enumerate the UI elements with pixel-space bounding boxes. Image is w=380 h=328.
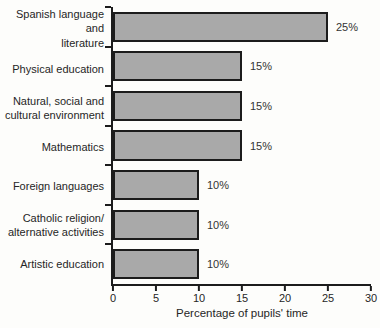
- x-axis: 051015202530: [0, 286, 380, 306]
- x-axis-label-row: Percentage of pupils' time: [0, 306, 380, 319]
- x-axis-tick: 5: [153, 286, 159, 304]
- tick-mark: [284, 286, 286, 291]
- chart-row: 15%: [113, 47, 371, 87]
- bar: [113, 170, 199, 200]
- category-label: Foreign languages: [0, 167, 111, 206]
- chart-row: 15%: [113, 86, 371, 126]
- value-label: 10%: [207, 179, 229, 191]
- x-axis-tick: 15: [236, 286, 248, 304]
- category-label: Catholic religion/ alternative activitie…: [0, 206, 111, 245]
- tick-mark: [112, 286, 114, 291]
- value-label: 10%: [207, 219, 229, 231]
- tick-label: 20: [279, 292, 291, 304]
- bar: [113, 130, 242, 160]
- x-axis-ticks: 051015202530: [113, 286, 371, 306]
- tick-label: 10: [193, 292, 205, 304]
- value-label: 15%: [250, 140, 272, 152]
- bar-chart-figure: Spanish language and literaturePhysical …: [0, 0, 380, 328]
- bar: [113, 12, 328, 42]
- x-axis-tick: 10: [193, 286, 205, 304]
- chart-grid: Spanish language and literaturePhysical …: [0, 7, 380, 286]
- value-label: 10%: [207, 258, 229, 270]
- bar: [113, 51, 242, 81]
- x-axis-tick: 20: [279, 286, 291, 304]
- x-axis-title: Percentage of pupils' time: [113, 307, 371, 319]
- tick-mark: [370, 286, 372, 291]
- chart-row: 15%: [113, 126, 371, 166]
- value-label: 15%: [250, 60, 272, 72]
- value-label: 15%: [250, 100, 272, 112]
- tick-mark: [198, 286, 200, 291]
- tick-label: 5: [153, 292, 159, 304]
- x-axis-spacer: [0, 286, 111, 306]
- category-label: Spanish language and literature: [0, 7, 111, 50]
- tick-label: 15: [236, 292, 248, 304]
- chart-row: 10%: [113, 165, 371, 205]
- bar: [113, 210, 199, 240]
- category-label: Natural, social and cultural environment: [0, 89, 111, 128]
- category-label: Physical education: [0, 50, 111, 89]
- tick-mark: [327, 286, 329, 291]
- tick-mark: [155, 286, 157, 291]
- category-labels-column: Spanish language and literaturePhysical …: [0, 7, 111, 284]
- chart-row: 10%: [113, 205, 371, 245]
- x-axis-tick: 30: [365, 286, 377, 304]
- bar: [113, 249, 199, 279]
- category-label: Artistic education: [0, 245, 111, 284]
- chart-row: 25%: [113, 7, 371, 47]
- tick-mark: [241, 286, 243, 291]
- tick-label: 0: [110, 292, 116, 304]
- tick-label: 25: [322, 292, 334, 304]
- bar: [113, 91, 242, 121]
- x-axis-tick: 0: [110, 286, 116, 304]
- x-axis-tick: 25: [322, 286, 334, 304]
- chart-row: 10%: [113, 244, 371, 284]
- tick-label: 30: [365, 292, 377, 304]
- value-label: 25%: [336, 21, 358, 33]
- category-label: Mathematics: [0, 128, 111, 167]
- plot-area: 25%15%15%15%10%10%10%: [111, 7, 371, 286]
